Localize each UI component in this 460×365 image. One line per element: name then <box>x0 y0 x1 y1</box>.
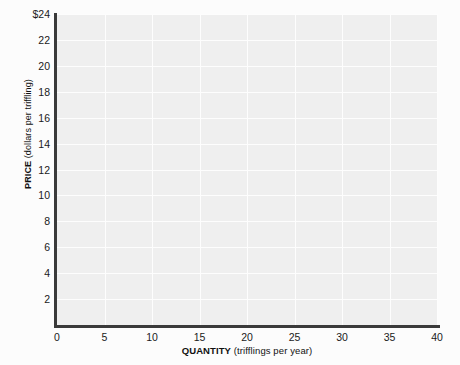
x-axis-title: QUANTITY (trifflings per year) <box>57 345 437 356</box>
x-axis-tick-label: 25 <box>289 331 301 343</box>
y-axis-tick-label: $24 <box>2 8 50 20</box>
x-axis-tick-label: 10 <box>146 331 158 343</box>
x-axis-tick-label: 40 <box>431 331 443 343</box>
x-axis-tick-label: 0 <box>54 331 60 343</box>
gridline-vertical <box>342 14 343 325</box>
x-axis-tick-label: 35 <box>384 331 396 343</box>
x-axis-title-units: (trifflings per year) <box>234 345 312 356</box>
y-axis-tick-label: 2 <box>2 293 50 305</box>
gridline-vertical <box>200 14 201 325</box>
y-axis-title-name: PRICE <box>23 161 33 189</box>
y-axis-title: PRICE (dollars per triffling) <box>23 54 33 214</box>
y-axis-line <box>54 13 57 328</box>
y-axis-title-units: (dollars per triffling) <box>23 79 33 158</box>
x-axis-tick-label: 30 <box>336 331 348 343</box>
x-axis-title-name: QUANTITY <box>182 345 231 356</box>
y-axis-tick-label: 6 <box>2 241 50 253</box>
gridline-vertical <box>390 14 391 325</box>
chart-figure: 246810121416182022$24 0510152025303540 P… <box>0 0 460 365</box>
gridline-vertical <box>295 14 296 325</box>
y-axis-tick-label: 8 <box>2 215 50 227</box>
plot-area <box>57 14 437 325</box>
gridline-vertical <box>437 14 438 325</box>
y-axis-tick-label: 22 <box>2 34 50 46</box>
x-axis-tick-label: 15 <box>194 331 206 343</box>
gridline-vertical <box>247 14 248 325</box>
y-axis-tick-label: 4 <box>2 267 50 279</box>
gridline-vertical <box>105 14 106 325</box>
gridline-vertical <box>152 14 153 325</box>
x-axis-line <box>54 325 440 328</box>
x-axis-tick-label: 20 <box>241 331 253 343</box>
x-axis-tick-label: 5 <box>102 331 108 343</box>
